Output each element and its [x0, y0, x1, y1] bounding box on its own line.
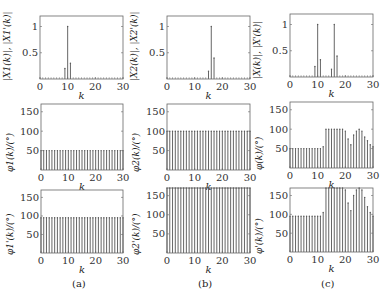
panel-c-phase-prime: 010203050100150kφ'(k)/(°) [290, 188, 373, 252]
panel-a-magnitude: 01020300.51k|X1(k)|, |X1'(k)| [40, 16, 123, 79]
x-axis-label: k [79, 264, 85, 275]
svg-text:30: 30 [367, 170, 380, 181]
x-axis-label: k [79, 90, 85, 101]
stem-plot: 010203050100150 [290, 102, 373, 168]
svg-text:50: 50 [152, 145, 165, 156]
svg-text:30: 30 [244, 81, 257, 92]
stem-plot: 01020300.51 [167, 16, 250, 79]
panel-c-magnitude: 01020300.51k|X(k)|, |X'(k)| [290, 14, 373, 77]
svg-text:30: 30 [367, 254, 380, 265]
svg-text:30: 30 [117, 255, 130, 266]
svg-text:0: 0 [38, 255, 44, 266]
svg-text:0: 0 [164, 172, 170, 183]
svg-text:10: 10 [188, 81, 201, 92]
svg-text:1: 1 [159, 21, 165, 32]
y-axis-label: |X1(k)|, |X1'(k)| [2, 11, 12, 81]
x-axis-label: k [329, 88, 335, 99]
svg-text:20: 20 [339, 79, 352, 90]
svg-text:20: 20 [89, 172, 102, 183]
svg-text:20: 20 [339, 254, 352, 265]
svg-text:150: 150 [20, 192, 39, 203]
svg-text:10: 10 [188, 255, 201, 266]
svg-text:100: 100 [146, 126, 165, 137]
svg-text:10: 10 [311, 170, 324, 181]
x-axis-label: k [206, 90, 212, 101]
caption-a: (a) [72, 278, 86, 289]
svg-text:30: 30 [117, 81, 130, 92]
stem-plot: 010203050100150 [167, 188, 250, 253]
svg-text:0: 0 [287, 170, 293, 181]
y-axis-label: φ2'(k)/(°) [131, 213, 141, 255]
svg-text:0.5: 0.5 [22, 47, 38, 58]
svg-text:20: 20 [216, 172, 229, 183]
svg-text:100: 100 [269, 209, 288, 220]
svg-text:50: 50 [275, 228, 288, 239]
svg-text:150: 150 [269, 190, 288, 201]
svg-text:10: 10 [62, 255, 75, 266]
svg-text:150: 150 [146, 106, 165, 117]
svg-text:0.5: 0.5 [149, 47, 165, 58]
svg-text:0: 0 [287, 254, 293, 265]
x-axis-label: k [206, 264, 212, 275]
y-axis-label: φ(k)/(°) [254, 137, 264, 170]
panel-b-phase-prime: 010203050100150kφ2'(k)/(°) [167, 188, 250, 253]
svg-text:100: 100 [146, 209, 165, 220]
svg-text:1: 1 [282, 19, 288, 30]
svg-text:10: 10 [188, 172, 201, 183]
svg-text:10: 10 [61, 81, 74, 92]
panel-b-magnitude: 01020300.51k|X2(k)|, |X2'(k)| [167, 16, 250, 79]
svg-text:10: 10 [311, 254, 324, 265]
panel-c-phase: 010203050100150kφ(k)/(°) [290, 102, 373, 168]
svg-text:100: 100 [269, 124, 288, 135]
svg-text:50: 50 [275, 143, 288, 154]
x-axis-label: k [329, 263, 335, 274]
caption-c: (c) [321, 278, 334, 289]
svg-text:20: 20 [216, 81, 229, 92]
svg-text:30: 30 [244, 255, 257, 266]
y-axis-label: |X2(k)|, |X2'(k)| [129, 11, 139, 81]
stem-plot: 01020300.51 [290, 14, 373, 77]
svg-text:30: 30 [367, 79, 380, 90]
svg-text:100: 100 [20, 126, 39, 137]
stem-plot: 010203050100150 [290, 188, 373, 252]
svg-text:50: 50 [26, 229, 39, 240]
svg-text:150: 150 [146, 190, 165, 201]
y-axis-label: φ'(k)/(°) [254, 218, 264, 254]
stem-plot: 01020300.51 [40, 16, 123, 79]
svg-text:150: 150 [20, 106, 39, 117]
svg-text:50: 50 [152, 228, 165, 239]
panel-a-phase-prime: 010203050100150kφ1'(k)/(°) [41, 190, 123, 253]
caption-b: (b) [198, 278, 212, 289]
svg-text:0.5: 0.5 [272, 45, 288, 56]
svg-text:10: 10 [311, 79, 324, 90]
svg-text:20: 20 [216, 255, 229, 266]
y-axis-label: |X(k)|, |X'(k)| [252, 21, 262, 79]
svg-text:20: 20 [89, 255, 102, 266]
svg-text:0: 0 [37, 81, 43, 92]
y-axis-label: φ2(k)/(°) [131, 133, 141, 172]
panel-a-phase: 010203050100150kφ1(k)/(°) [41, 104, 123, 170]
svg-text:0: 0 [287, 79, 293, 90]
svg-text:20: 20 [339, 170, 352, 181]
stem-plot: 010203050100150 [41, 190, 123, 253]
stem-plot: 010203050100150 [167, 104, 250, 170]
svg-text:0: 0 [164, 81, 170, 92]
svg-text:30: 30 [244, 172, 257, 183]
svg-text:100: 100 [20, 210, 39, 221]
y-axis-label: φ1'(k)/(°) [5, 213, 15, 255]
svg-text:20: 20 [89, 81, 102, 92]
panel-b-phase: 010203050100150kφ2(k)/(°) [167, 104, 250, 170]
svg-text:0: 0 [38, 172, 44, 183]
y-axis-label: φ1(k)/(°) [5, 133, 15, 172]
stem-plot: 010203050100150 [41, 104, 123, 170]
svg-text:0: 0 [164, 255, 170, 266]
svg-text:50: 50 [26, 145, 39, 156]
svg-text:150: 150 [269, 104, 288, 115]
svg-text:1: 1 [32, 21, 38, 32]
svg-text:30: 30 [117, 172, 130, 183]
svg-text:10: 10 [62, 172, 75, 183]
